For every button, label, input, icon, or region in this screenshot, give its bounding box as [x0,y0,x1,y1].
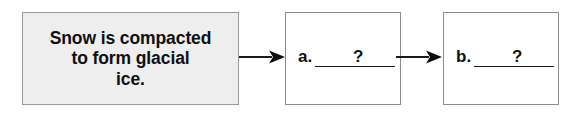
flow-step-blank-a: a. ? [285,12,401,105]
answer-blank-line-b[interactable]: ? [474,46,554,67]
answer-blank-line-a[interactable]: ? [315,46,395,67]
arrow-right-icon-2 [396,49,443,65]
process-flow-diagram: Snow is compacted to form glacial ice. a… [0,0,578,116]
question-mark-b: ? [474,48,554,65]
flow-step-statement: Snow is compacted to form glacial ice. [22,12,239,105]
blank-answer-row-a: a. ? [298,46,395,67]
blank-label-a: a. [298,48,312,67]
blank-answer-row-b: b. ? [456,46,554,67]
flow-step-blank-b: b. ? [443,12,559,105]
blank-label-b: b. [456,48,471,67]
arrow-right-icon-1 [239,49,286,65]
question-mark-a: ? [315,48,395,65]
statement-text: Snow is compacted to form glacial ice. [44,28,218,89]
